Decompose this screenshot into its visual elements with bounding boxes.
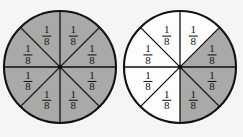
fraction-denominator: 8 [71, 35, 77, 47]
fraction-numerator: 1 [44, 88, 50, 100]
fraction-numerator: 1 [145, 69, 151, 81]
fraction-circle-right: 1818181818181818 [124, 11, 236, 123]
fraction-numerator: 1 [25, 69, 31, 81]
fraction-denominator: 8 [145, 54, 151, 66]
fraction-numerator: 1 [71, 88, 77, 100]
fraction-denominator: 8 [44, 35, 50, 47]
fraction-numerator: 1 [164, 88, 170, 100]
fraction-denominator: 8 [209, 54, 215, 66]
fraction-denominator: 8 [209, 80, 215, 92]
fraction-denominator: 8 [191, 99, 197, 111]
fraction-numerator: 1 [191, 23, 197, 35]
fraction-diagram-canvas: 18181818181818181818181818181818 [0, 0, 243, 137]
circles-layer: 18181818181818181818181818181818 [4, 11, 236, 123]
fraction-numerator: 1 [89, 69, 95, 81]
fraction-denominator: 8 [191, 35, 197, 47]
fraction-numerator: 1 [145, 42, 151, 54]
fraction-denominator: 8 [89, 80, 95, 92]
fraction-denominator: 8 [25, 80, 31, 92]
fraction-denominator: 8 [71, 99, 77, 111]
fraction-numerator: 1 [191, 88, 197, 100]
circle-center-dot [178, 65, 182, 69]
fraction-numerator: 1 [89, 42, 95, 54]
fraction-circles-figure: 18181818181818181818181818181818 [0, 0, 243, 137]
fraction-numerator: 1 [44, 23, 50, 35]
circle-center-dot [58, 65, 62, 69]
fraction-denominator: 8 [89, 54, 95, 66]
fraction-circle-left: 1818181818181818 [4, 11, 116, 123]
fraction-denominator: 8 [145, 80, 151, 92]
fraction-denominator: 8 [25, 54, 31, 66]
fraction-denominator: 8 [164, 35, 170, 47]
fraction-denominator: 8 [44, 99, 50, 111]
fraction-numerator: 1 [164, 23, 170, 35]
fraction-denominator: 8 [164, 99, 170, 111]
fraction-numerator: 1 [209, 42, 215, 54]
fraction-numerator: 1 [209, 69, 215, 81]
fraction-numerator: 1 [25, 42, 31, 54]
fraction-numerator: 1 [71, 23, 77, 35]
